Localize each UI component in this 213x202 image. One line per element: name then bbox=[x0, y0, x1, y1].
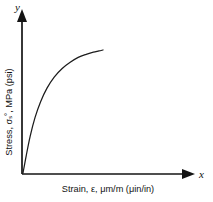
y-axis-title: Stress, σₛ˚, MPa (psi) bbox=[4, 68, 14, 155]
x-axis-letter: x bbox=[198, 168, 204, 180]
x-axis-title: Strain, ε, μm/m (μin/in) bbox=[62, 184, 154, 194]
stress-strain-figure: y x Strain, ε, μm/m (μin/in) Stress, σₛ˚… bbox=[0, 0, 213, 202]
y-axis-letter: y bbox=[14, 1, 20, 13]
stress-strain-curve bbox=[23, 50, 103, 173]
x-axis-arrowhead-icon bbox=[182, 169, 195, 179]
plot-canvas: y x Strain, ε, μm/m (μin/in) Stress, σₛ˚… bbox=[0, 0, 213, 202]
